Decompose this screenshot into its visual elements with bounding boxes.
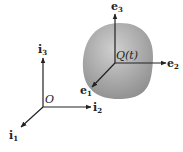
e2-label: e2 <box>167 58 179 70</box>
origin-label: O <box>45 94 54 105</box>
i1-label: i1 <box>9 130 18 142</box>
diagram-canvas <box>0 0 183 152</box>
i1-axis <box>21 107 43 127</box>
i2-label: i2 <box>93 102 102 114</box>
body-point-label: Q(t) <box>116 50 138 61</box>
e3-label: e3 <box>111 1 123 13</box>
i3-label: i3 <box>38 44 47 56</box>
e1-label: e1 <box>80 85 92 97</box>
